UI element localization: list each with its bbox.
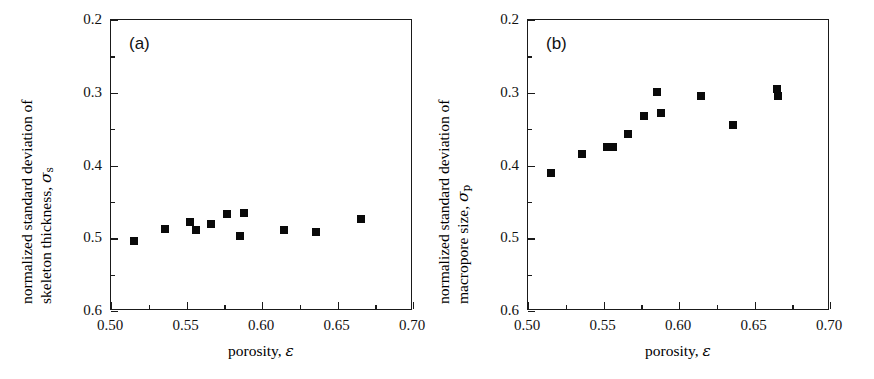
y-tick-label: 0.2 [475, 12, 519, 27]
data-point-marker [192, 226, 200, 234]
y-axis-title-line2-text: skeleton thickness, [37, 183, 54, 304]
data-markers-a [111, 20, 411, 309]
data-point-marker [357, 215, 365, 223]
x-tick-label: 0.65 [726, 318, 782, 333]
y-tick-label: 0.5 [475, 230, 519, 245]
y-axis-tick [111, 311, 118, 312]
data-point-marker [280, 226, 288, 234]
data-point-marker [624, 130, 632, 138]
panel-a: normalized standard deviation of 0.6 0.5… [0, 0, 437, 379]
y-axis-title-b: normalized standard deviation of [435, 100, 453, 304]
y-axis-title-a-line2: skeleton thickness, σs [37, 167, 55, 304]
x-axis-title-b: porosity, ε [527, 342, 829, 360]
x-tick-label: 0.60 [650, 318, 706, 333]
x-tick-label: 0.50 [499, 318, 555, 333]
data-point-marker [729, 121, 737, 129]
x-tick-label: 0.50 [82, 318, 138, 333]
data-point-marker [186, 218, 194, 226]
y-axis-title-line1: normalized standard deviation of [18, 100, 36, 304]
sigma-subscript: p [460, 185, 472, 192]
panel-label-b: (b) [546, 34, 567, 54]
y-tick-label: 0.4 [475, 158, 519, 173]
x-tick-label: 0.70 [384, 318, 440, 333]
y-axis-tick [528, 311, 535, 312]
panel-b: normalized standard deviation of 0.6 0.5… [437, 0, 874, 379]
data-point-marker [609, 143, 617, 151]
data-point-marker [640, 112, 648, 120]
data-point-marker [547, 169, 555, 177]
y-tick-label: 0.4 [58, 158, 102, 173]
data-point-marker [774, 92, 782, 100]
x-axis-tick [830, 302, 831, 309]
panel-label-a: (a) [129, 34, 150, 54]
x-axis-title-a: porosity, ε [110, 342, 412, 360]
x-axis-tick [413, 302, 414, 309]
data-point-marker [207, 220, 215, 228]
plot-area-b: (b) [527, 19, 829, 310]
y-axis-title-a: normalized standard deviation of [18, 100, 36, 304]
data-point-marker [578, 150, 586, 158]
data-point-marker [240, 209, 248, 217]
sigma-symbol: σp [454, 185, 472, 202]
y-axis-title-line2-text: macropore size, [454, 202, 471, 304]
y-tick-label: 0.3 [475, 85, 519, 100]
y-tick-label: 0.2 [58, 12, 102, 27]
x-tick-label: 0.70 [801, 318, 857, 333]
x-tick-label: 0.65 [309, 318, 365, 333]
data-point-marker [653, 88, 661, 96]
sigma-symbol: σs [37, 167, 55, 183]
x-tick-label: 0.60 [233, 318, 289, 333]
data-point-marker [657, 109, 665, 117]
y-axis-title-line1: normalized standard deviation of [435, 100, 453, 304]
epsilon-symbol: ε [286, 342, 294, 360]
figure-two-panel-scatter: normalized standard deviation of 0.6 0.5… [0, 0, 874, 379]
y-tick-label: 0.6 [58, 303, 102, 318]
x-tick-label: 0.55 [575, 318, 631, 333]
data-point-marker [161, 225, 169, 233]
plot-area-a: (a) [110, 19, 412, 310]
y-tick-label: 0.3 [58, 85, 102, 100]
y-tick-label: 0.6 [475, 303, 519, 318]
data-point-marker [130, 237, 138, 245]
x-axis-title-text: porosity, [645, 342, 703, 359]
y-tick-label: 0.5 [58, 230, 102, 245]
epsilon-symbol: ε [703, 342, 711, 360]
data-markers-b [528, 20, 828, 309]
y-axis-title-b-line2: macropore size, σp [454, 185, 472, 304]
sigma-subscript: s [43, 167, 55, 172]
data-point-marker [223, 210, 231, 218]
data-point-marker [697, 92, 705, 100]
x-axis-title-text: porosity, [228, 342, 286, 359]
x-tick-label: 0.55 [158, 318, 214, 333]
data-point-marker [312, 228, 320, 236]
data-point-marker [236, 232, 244, 240]
